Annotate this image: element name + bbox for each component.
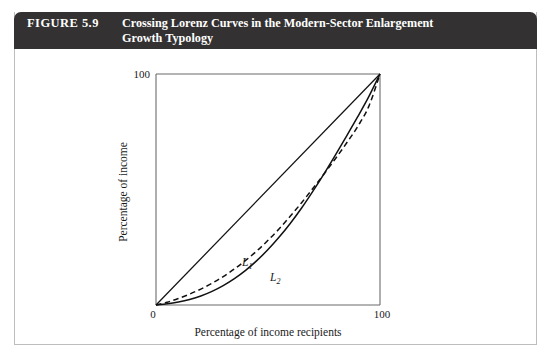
figure-container: FIGURE 5.9 Crossing Lorenz Curves in the… [0, 0, 554, 362]
x-axis-tick-100: 100 [374, 308, 391, 320]
line-of-equality [156, 74, 380, 305]
figure-title: Crossing Lorenz Curves in the Modern-Sec… [122, 16, 537, 46]
curve-label-l2: L2 [269, 271, 280, 286]
y-axis-tick-100: 100 [134, 68, 151, 80]
x-axis-label: Percentage of income recipients [194, 326, 342, 339]
figure-title-line-1: Crossing Lorenz Curves in the Modern-Sec… [122, 16, 523, 31]
figure-header-banner: FIGURE 5.9 Crossing Lorenz Curves in the… [14, 12, 537, 49]
x-axis-tick-0: 0 [150, 308, 156, 320]
lorenz-curve-chart: 100 0 100 Percentage of income recipient… [14, 49, 537, 345]
figure-title-line-2: Growth Typology [122, 31, 523, 46]
curve-label-l2-text: L2 [269, 271, 280, 286]
y-axis-label: Percentage of income [117, 142, 130, 242]
figure-number-label: FIGURE 5.9 [14, 16, 122, 31]
chart-plot-area: 100 0 100 Percentage of income recipient… [14, 49, 537, 345]
